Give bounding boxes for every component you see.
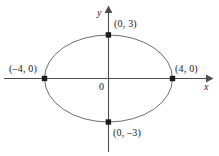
point-marker-top — [106, 32, 111, 37]
point-marker-right — [170, 76, 175, 81]
point-label-top: (0, 3) — [114, 19, 137, 29]
point-label-bottom: (0, –3) — [113, 128, 141, 138]
point-marker-bottom — [106, 119, 111, 124]
ellipse-graph-figure: (0, 3) (0, –3) (–4, 0) (4, 0) 0 y x — [0, 0, 219, 156]
point-marker-left — [42, 76, 47, 81]
y-axis-arrowhead — [105, 6, 113, 14]
origin-label: 0 — [99, 82, 104, 92]
point-label-left: (–4, 0) — [9, 64, 37, 74]
point-label-right: (4, 0) — [175, 64, 198, 74]
coordinate-plane-svg — [0, 0, 219, 156]
x-axis-label: x — [204, 82, 208, 92]
y-axis-label: y — [97, 8, 101, 18]
